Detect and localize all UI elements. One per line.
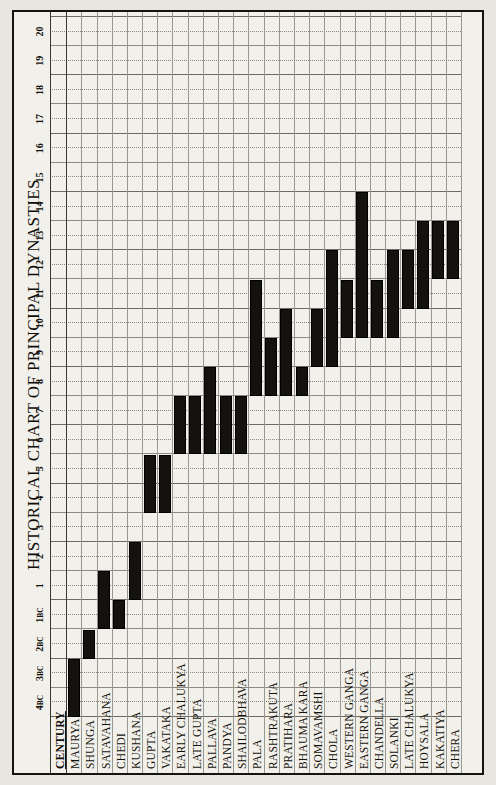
century-tick-label: 9 xyxy=(34,350,45,355)
century-tick-label: 6 xyxy=(34,437,45,442)
century-tick-label: 11 xyxy=(34,289,45,298)
century-tick-label: 2 xyxy=(34,554,45,559)
century-tick-label: 4 xyxy=(34,496,45,501)
century-tick-label: 5 xyxy=(34,467,45,472)
century-tick-label: 1 xyxy=(34,583,45,588)
century-tick-label: 1BC xyxy=(34,607,45,622)
century-tick-label: 17 xyxy=(34,114,45,124)
century-tick-label: 2BC xyxy=(34,636,45,651)
chart-page: HISTORICAL CHART OF PRINCIPAL DYNASTIES … xyxy=(0,0,496,785)
rotated-chart-container: HISTORICAL CHART OF PRINCIPAL DYNASTIES … xyxy=(14,12,482,773)
century-tick-label: 8 xyxy=(34,379,45,384)
century-tick-label: 3 xyxy=(34,525,45,530)
chart-frame: HISTORICAL CHART OF PRINCIPAL DYNASTIES … xyxy=(12,10,484,775)
century-tick-label: 13 xyxy=(34,231,45,241)
century-tick-label: 18 xyxy=(34,85,45,95)
chart-plot-area: HISTORICAL CHART OF PRINCIPAL DYNASTIES … xyxy=(14,12,482,773)
century-axis-ticks: 4BC3BC2BC1BC1234567891011121314151617181… xyxy=(14,12,482,773)
century-tick-label: 4BC xyxy=(34,695,45,710)
century-tick-label: 7 xyxy=(34,408,45,413)
century-tick-label: 20 xyxy=(34,27,45,37)
century-tick-label: 10 xyxy=(34,318,45,328)
century-tick-label: 16 xyxy=(34,143,45,153)
century-tick-label: 14 xyxy=(34,202,45,212)
century-tick-label: 15 xyxy=(34,172,45,182)
century-tick-label: 12 xyxy=(34,260,45,270)
century-tick-label: 19 xyxy=(34,56,45,66)
century-tick-label: 3BC xyxy=(34,666,45,681)
